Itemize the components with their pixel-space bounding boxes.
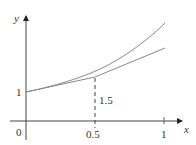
x-tick-label-1: 1 [161,128,167,140]
x-axis-label: x [183,123,189,135]
y-tick-label-1: 1 [16,86,22,98]
x-tick-label-half: 0.5 [86,128,100,140]
origin-label: 0 [16,126,22,138]
y-axis-label: y [13,12,19,24]
annotation-label: 1.5 [99,94,113,106]
chart: y x 0 1 0.5 1 1.5 [0,0,196,145]
